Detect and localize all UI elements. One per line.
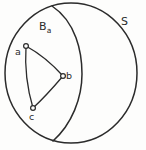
- vertex-label-b: b: [66, 71, 72, 81]
- region-label-subscript: a: [47, 26, 52, 35]
- vertex-dot-b: [61, 74, 66, 79]
- triangle-edge-ca: [26, 46, 33, 108]
- vertex-label-c: c: [29, 112, 34, 122]
- spherical-triangle-figure: Ba S a b c: [0, 0, 146, 150]
- vertex-dot-a: [24, 44, 29, 49]
- sphere-label-S: S: [121, 16, 128, 27]
- region-label-base: B: [39, 20, 47, 33]
- vertex-label-a: a: [15, 47, 21, 57]
- triangle-edge-ab: [26, 46, 63, 76]
- region-label-B-sub-a: Ba: [39, 21, 51, 35]
- triangle-edge-bc: [33, 76, 63, 108]
- vertex-dot-c: [31, 106, 36, 111]
